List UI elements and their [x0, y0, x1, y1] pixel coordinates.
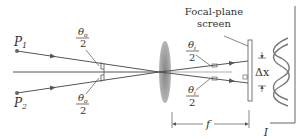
point-p2	[15, 91, 19, 95]
label-p2: P2	[13, 96, 27, 111]
leader-object-lower	[86, 78, 99, 94]
focal-plane-screen	[248, 40, 252, 101]
ray-p2	[17, 71, 166, 93]
label-theta-i-lower: θi 2	[186, 84, 199, 108]
leader-screen-label	[224, 36, 248, 46]
label-focal-length: f	[205, 118, 212, 131]
svg-text:θi: θi	[188, 39, 196, 51]
label-delta-x: Δx	[255, 66, 270, 79]
label-theta-o-upper: θo 2	[76, 26, 89, 49]
ray-image-2	[160, 72, 248, 83]
ray-p1	[17, 51, 166, 73]
label-theta-i-upper: θi 2	[186, 39, 199, 63]
diffraction-resolution-diagram: P1 P2 θo 2 θo 2 θi 2 θi 2 Focal-plane sc…	[0, 0, 304, 139]
leader-image-lower	[196, 78, 211, 90]
svg-text:2: 2	[189, 97, 195, 108]
label-theta-o-lower: θo 2	[76, 92, 89, 116]
label-p1: P1	[13, 35, 27, 50]
intensity-axis	[270, 6, 295, 123]
svg-text:θi: θi	[188, 84, 196, 96]
leader-object-upper	[86, 50, 99, 66]
right-angle-marker-screen	[243, 75, 247, 79]
label-screen-line2: screen	[197, 18, 231, 29]
svg-text:2: 2	[80, 105, 86, 116]
svg-text:2: 2	[80, 38, 86, 49]
leader-image-upper	[196, 55, 211, 66]
svg-text:2: 2	[189, 52, 195, 63]
label-intensity: I	[263, 126, 269, 139]
label-screen-line1: Focal-plane	[185, 6, 244, 17]
svg-text:θo: θo	[78, 26, 88, 38]
point-p1	[15, 49, 19, 53]
ray-image-1	[160, 61, 248, 72]
